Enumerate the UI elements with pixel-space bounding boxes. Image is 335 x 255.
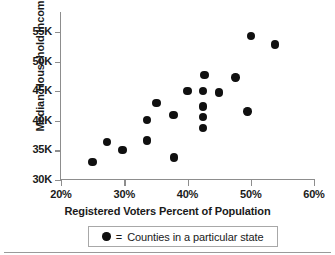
x-axis-tick-label: 50% [229, 188, 273, 200]
y-axis-tick-label: 40K [2, 114, 52, 126]
y-axis-title: Median Household Income [34, 0, 46, 148]
x-axis-tick-label: 60% [292, 188, 335, 200]
x-axis-tick [124, 180, 125, 186]
legend-entry-label: Counties in a particular state [127, 231, 263, 243]
y-axis-tick-label: 35K [2, 143, 52, 155]
x-axis-tick [188, 180, 189, 186]
scatter-chart: Median Household Income 30K35K40K45K50K5… [0, 0, 335, 255]
y-axis-tick-label: 30K [2, 173, 52, 185]
x-axis-title: Registered Voters Percent of Population [0, 205, 335, 217]
x-axis-tick-label: 20% [39, 188, 83, 200]
plot-area [61, 12, 314, 180]
data-point [170, 153, 178, 161]
x-axis-tick [251, 180, 252, 186]
legend-marker-icon [102, 232, 110, 240]
data-point [152, 99, 160, 107]
data-point [143, 136, 151, 144]
data-point [169, 111, 177, 119]
legend: = Counties in a particular state [88, 226, 278, 247]
data-point [199, 102, 207, 110]
data-point [231, 73, 239, 81]
y-axis-tick-label: 55K [2, 25, 52, 37]
legend-equals-label: = [116, 231, 122, 243]
data-point [118, 146, 126, 154]
x-axis-tick [61, 180, 62, 186]
x-axis-tick [314, 180, 315, 186]
bottom-divider [4, 252, 331, 253]
data-point [243, 107, 251, 115]
data-point [215, 88, 223, 96]
data-point [271, 40, 279, 48]
x-axis-tick-label: 30% [102, 188, 146, 200]
x-axis-tick-label: 40% [166, 188, 210, 200]
data-point [183, 87, 191, 95]
y-axis-tick-label: 45K [2, 84, 52, 96]
y-axis-tick-label: 50K [2, 55, 52, 67]
data-point [199, 124, 207, 132]
